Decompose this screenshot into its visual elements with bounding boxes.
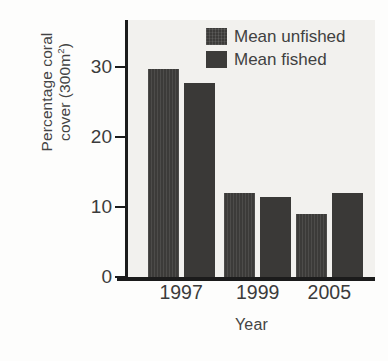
x-axis-title: Year [128,316,375,334]
x-axis-tick-labels: 199719992005 [128,283,375,313]
legend-item-mean-fished: Mean fished [206,49,346,69]
legend-swatch-mean-unfished [206,28,227,45]
legend-label-mean-fished: Mean fished [234,51,327,68]
legend-item-mean-unfished: Mean unfished [206,26,346,46]
legend-swatch-mean-fished [206,51,227,68]
bar-2005-mean-unfished [296,214,327,277]
y-axis-tick-labels: 0102030 [0,0,112,300]
coral-cover-bar-chart: Percentage coral cover (300m2) 0102030 1… [0,0,388,361]
x-axis-line [117,277,375,281]
y-axis-tick-30 [115,66,126,68]
x-axis-tick-label-2005: 2005 [284,283,374,303]
y-axis-tick-label-0: 0 [12,267,112,286]
bar-1997-mean-fished [184,83,215,277]
y-axis-tick-label-30: 30 [12,57,112,76]
y-axis-tick-0 [115,276,126,278]
bar-1997-mean-unfished [148,69,179,277]
y-axis-tick-20 [115,136,126,138]
y-axis-tick-10 [115,206,126,208]
bar-1999-mean-fished [260,197,291,277]
y-axis-tick-label-10: 10 [12,197,112,216]
chart-legend: Mean unfished Mean fished [206,26,346,69]
bar-1999-mean-unfished [224,193,255,277]
legend-label-mean-unfished: Mean unfished [234,28,346,45]
bar-2005-mean-fished [332,193,363,277]
y-axis-tick-label-20: 20 [12,127,112,146]
